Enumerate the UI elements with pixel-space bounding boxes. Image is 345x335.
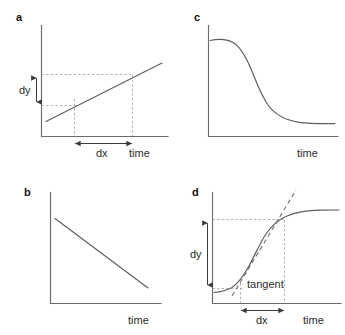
- panel-c-x-axis-label: time: [297, 147, 318, 159]
- panel-b: b time: [24, 186, 161, 326]
- panel-d-tangent-label: tangent: [247, 278, 284, 290]
- panel-d-dx-label: dx: [256, 314, 268, 326]
- panel-d-letter: d: [192, 186, 199, 198]
- panel-d-dy-label: dy: [190, 248, 202, 260]
- panel-c: c time: [194, 11, 338, 159]
- panel-b-x-axis-label: time: [128, 314, 149, 326]
- panel-a-x-axis-label: time: [129, 147, 150, 159]
- panel-b-letter: b: [24, 186, 31, 198]
- panel-a-letter: a: [16, 11, 23, 23]
- figure-canvas: a dy dx time c time b: [0, 0, 345, 335]
- panel-c-letter: c: [194, 11, 200, 23]
- panel-d: d dy dx tangent time: [190, 186, 341, 326]
- panel-a-dy-label: dy: [19, 84, 31, 96]
- panel-d-x-axis-label: time: [303, 314, 324, 326]
- panel-a-data-line: [46, 63, 162, 122]
- four-panel-derivative-figure: a dy dx time c time b: [0, 0, 345, 335]
- panel-b-data-line: [55, 219, 148, 289]
- panel-c-data-curve: [210, 39, 335, 123]
- panel-a: a dy dx time: [16, 11, 168, 159]
- panel-a-dx-label: dx: [96, 147, 108, 159]
